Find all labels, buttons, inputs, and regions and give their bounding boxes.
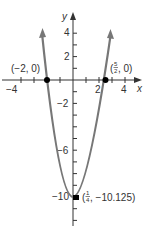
y-ticks — [73, 33, 77, 220]
x-tick-label: 4 — [121, 84, 127, 95]
y-tick-label: −6 — [57, 145, 69, 156]
y-tick-label: 2 — [64, 51, 70, 62]
x-tick-label: 2 — [95, 84, 101, 95]
y-tick-label: −10 — [52, 191, 69, 202]
y-axis-arrow-icon — [70, 12, 76, 20]
point-label-left: (−2, 0) — [11, 63, 40, 74]
curve-arrow-left-icon — [39, 28, 46, 38]
point-left-root — [44, 77, 50, 83]
point-label-vertex: ( 1 4 , −10.125) — [82, 190, 135, 203]
chart: y x −4 2 4 4 2 −2 −6 −10 (−2, 0) ( 5 2 ,… — [0, 0, 150, 234]
y-axis — [70, 12, 76, 226]
x-axis-label: x — [136, 83, 143, 94]
point-vertex — [73, 195, 79, 200]
svg-text:, −10.125): , −10.125) — [90, 192, 135, 203]
x-axis — [2, 77, 142, 83]
y-tick-label: −2 — [57, 98, 69, 109]
y-axis-label: y — [61, 11, 68, 22]
point-right-root — [103, 77, 109, 83]
svg-text:, 0): , 0) — [118, 63, 132, 74]
x-tick-label: −4 — [6, 84, 18, 95]
curve-arrow-right-icon — [107, 29, 114, 39]
y-tick-label: 4 — [64, 27, 70, 38]
point-label-right: ( 5 2 , 0) — [110, 61, 132, 74]
